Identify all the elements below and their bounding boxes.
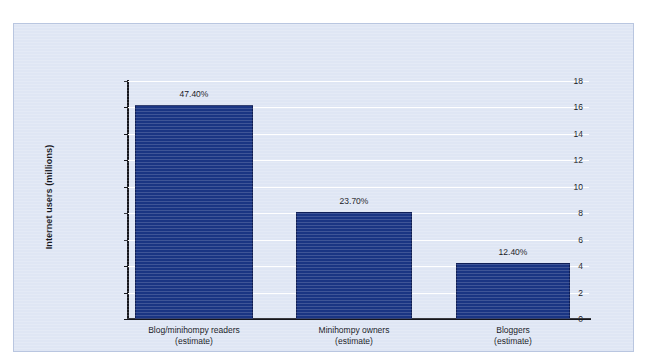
chart-figure: Internet users (millions) 02468101214161… — [0, 0, 645, 362]
y-axis-tick-mark — [124, 266, 128, 267]
x-axis-category-label: Blog/minihompy readers(estimate) — [105, 325, 283, 347]
bar-value-label: 12.40% — [456, 247, 570, 257]
x-axis-category-label-line: (estimate) — [266, 336, 442, 347]
y-axis-tick-mark — [124, 293, 128, 294]
y-axis-tick-mark — [124, 240, 128, 241]
x-axis-category-label-line: Blog/minihompy readers — [105, 325, 283, 336]
y-axis-tick-mark — [124, 213, 128, 214]
y-axis-tick-mark — [124, 160, 128, 161]
y-axis-title: Internet users (millions) — [42, 74, 56, 319]
x-axis-category-label: Bloggers(estimate) — [426, 325, 600, 347]
x-axis-category-label-line: (estimate) — [426, 336, 600, 347]
y-axis-tick-label: 12 — [543, 155, 583, 165]
y-axis-tick-label: 6 — [543, 235, 583, 245]
x-axis-category-label-line: (estimate) — [105, 336, 283, 347]
bar-value-label: 47.40% — [135, 89, 253, 99]
y-axis-tick-label: 8 — [543, 208, 583, 218]
y-axis-tick-label: 16 — [543, 102, 583, 112]
y-axis-tick-mark — [124, 187, 128, 188]
y-axis-tick-label: 14 — [543, 129, 583, 139]
bar-value-label: 23.70% — [296, 196, 412, 206]
y-axis-tick-mark — [124, 319, 128, 320]
y-axis-tick-mark — [124, 81, 128, 82]
x-axis-category-label-line: Bloggers — [426, 325, 600, 336]
plot-area: 024681012141618 47.40%23.70%12.40% — [128, 81, 591, 319]
y-axis-tick-label: 10 — [543, 182, 583, 192]
y-axis-tick-mark — [124, 107, 128, 108]
x-axis-category-label-line: Minihompy owners — [266, 325, 442, 336]
y-axis-title-text: Internet users (millions) — [44, 144, 54, 249]
chart-panel: Internet users (millions) 02468101214161… — [13, 23, 634, 352]
bar[interactable] — [456, 263, 570, 319]
y-axis-tick-label: 18 — [543, 76, 583, 86]
x-axis-category-label: Minihompy owners(estimate) — [266, 325, 442, 347]
y-axis-tick-mark — [124, 134, 128, 135]
bar[interactable] — [135, 105, 253, 319]
gridline — [128, 81, 589, 82]
bar[interactable] — [296, 212, 412, 319]
